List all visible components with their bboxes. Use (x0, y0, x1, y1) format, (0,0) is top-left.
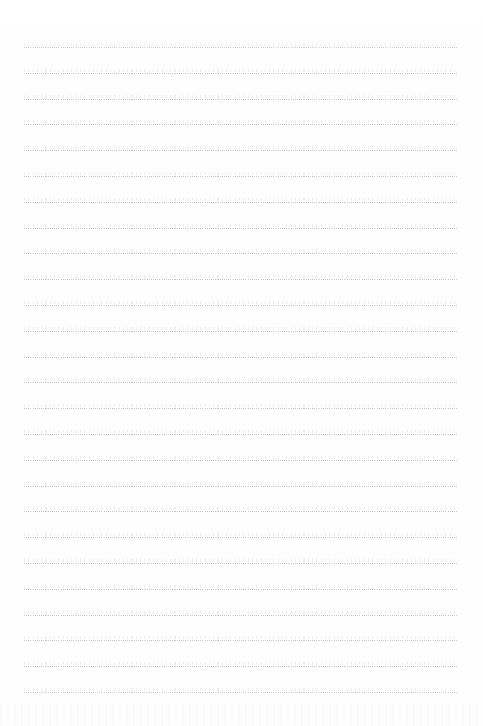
rule-line (24, 279, 458, 280)
rule-line (24, 434, 458, 435)
rule-line (24, 537, 458, 538)
rule-line (24, 382, 458, 383)
notebook-page (0, 0, 483, 726)
rule-line (24, 331, 458, 332)
rule-line (24, 176, 458, 177)
rule-line (24, 99, 458, 100)
rule-line (24, 253, 458, 254)
rule-line (24, 228, 458, 229)
ruled-lines-area (0, 0, 483, 726)
rule-line (24, 202, 458, 203)
rule-line (24, 589, 458, 590)
rule-line (24, 73, 458, 74)
rule-line (24, 150, 458, 151)
rule-line (24, 692, 458, 693)
rule-line (24, 615, 458, 616)
rule-line (24, 511, 458, 512)
rule-line (24, 640, 458, 641)
rule-line (24, 305, 458, 306)
rule-line (24, 460, 458, 461)
rule-line (24, 408, 458, 409)
rule-line (24, 486, 458, 487)
rule-line (24, 47, 458, 48)
rule-line (24, 563, 458, 564)
rule-line (24, 666, 458, 667)
rule-line (24, 357, 458, 358)
rule-line (24, 124, 458, 125)
